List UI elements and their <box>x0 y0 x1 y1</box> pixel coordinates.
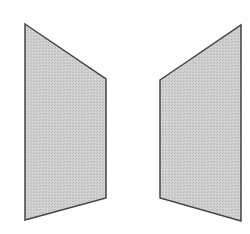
left-panel-shape <box>25 24 106 220</box>
diagram-canvas <box>0 0 250 234</box>
panels-diagram <box>0 0 250 234</box>
right-panel-shape <box>160 25 241 221</box>
